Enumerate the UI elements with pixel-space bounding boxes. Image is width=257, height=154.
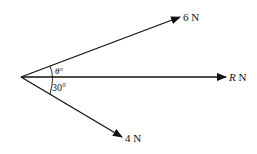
force-4n-arrow [21, 77, 122, 137]
theta-angle-label: θ° [55, 66, 63, 76]
resultant-label: R N [228, 71, 246, 83]
force-4n-label: 4 N [125, 132, 141, 144]
force-6n-arrow [21, 17, 180, 77]
force-diagram: 6 N R N 4 N θ° 30° [0, 0, 257, 154]
thirty-angle-label: 30° [52, 82, 66, 93]
force-6n-label: 6 N [183, 11, 199, 23]
